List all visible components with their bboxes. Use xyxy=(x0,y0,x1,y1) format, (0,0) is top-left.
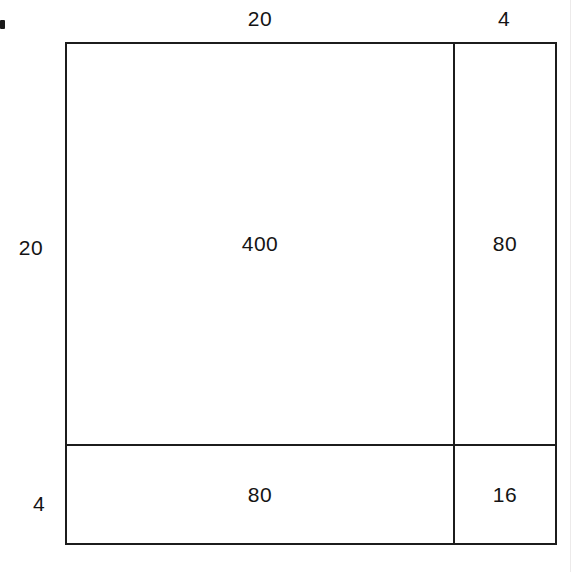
dimension-label-left-lower: 4 xyxy=(18,489,60,519)
dimension-label-top-left: 20 xyxy=(225,4,295,34)
area-model-rectangle: 400 80 80 16 xyxy=(65,42,557,545)
page-edge-artifact xyxy=(570,0,571,572)
area-model-figure: 20 4 20 4 400 80 80 16 xyxy=(0,0,575,572)
cell-bottom-right: 16 xyxy=(455,446,555,543)
dimension-label-left-upper: 20 xyxy=(2,233,60,263)
cell-top-right: 80 xyxy=(455,44,555,444)
cell-bottom-left: 80 xyxy=(67,446,453,543)
dimension-label-top-right: 4 xyxy=(474,4,534,34)
cell-top-left: 400 xyxy=(67,44,453,444)
corner-bullet-mark xyxy=(0,20,5,29)
